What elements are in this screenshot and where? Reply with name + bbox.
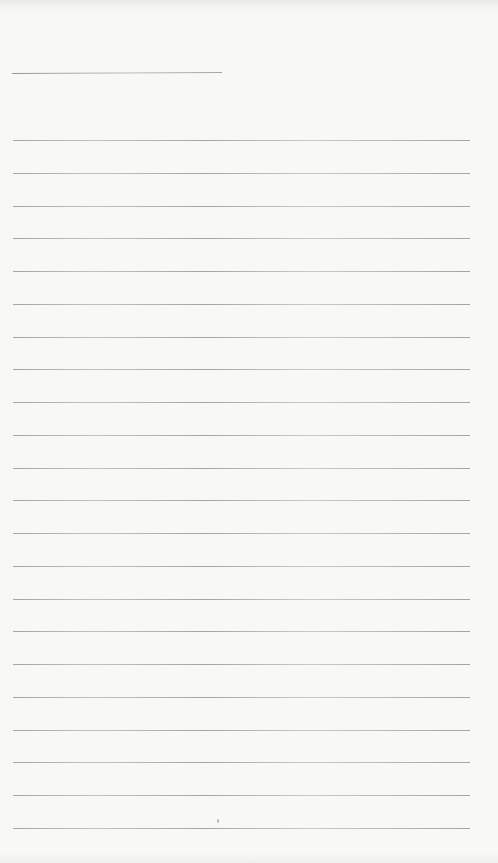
ruled-line [13,697,470,698]
ruled-line [13,337,470,338]
ruled-line [13,402,470,403]
ruled-line [13,664,470,665]
scan-texture-top-edge [0,0,498,12]
heading-underline [12,72,222,74]
ruled-line [13,435,470,436]
ruled-line [13,795,470,796]
ruled-line [13,304,470,305]
ruled-line [13,206,470,207]
ruled-line [13,271,470,272]
ruled-line [13,566,470,567]
ruled-line [13,730,470,731]
ruled-line [13,762,470,763]
ruled-line [13,369,470,370]
notebook-page [0,0,498,863]
ruled-line [13,173,470,174]
ruled-line [13,828,470,829]
ruled-line [13,533,470,534]
ruled-line [13,468,470,469]
scan-texture-bottom-edge [0,853,498,863]
stray-ink-speck [217,819,219,823]
ruled-line [13,140,470,141]
ruled-line [13,631,470,632]
ruled-line [13,599,470,600]
ruled-line [13,500,470,501]
ruled-line [13,238,470,239]
